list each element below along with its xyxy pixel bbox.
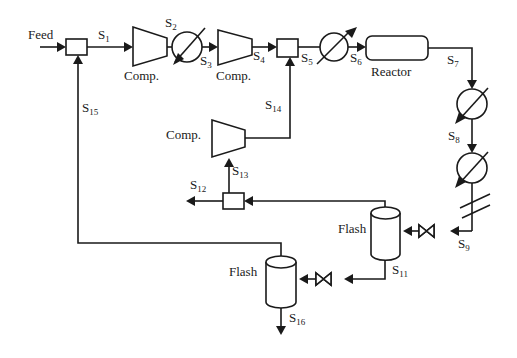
reactor-label: Reactor [371, 64, 412, 79]
stream-s7: S7 [428, 48, 477, 89]
svg-text:S15: S15 [82, 100, 99, 117]
svg-text:S9: S9 [458, 236, 470, 253]
valve-1 [403, 225, 434, 237]
stream-s1: S1 [87, 27, 133, 52]
flash-2-label: Flash [229, 264, 258, 279]
svg-text:S1: S1 [98, 27, 110, 44]
stream-s9: S9 [450, 226, 472, 253]
valve-2 [299, 273, 331, 285]
mixer-2 [277, 39, 298, 57]
compressor-2-label: Comp. [216, 68, 251, 83]
svg-text:S2: S2 [165, 15, 177, 32]
flash-1-label: Flash [338, 221, 367, 236]
compressor-1 [133, 27, 167, 66]
cooler-2 [455, 88, 488, 124]
cooler-3 [455, 152, 488, 188]
reactor [366, 36, 428, 60]
svg-text:S3: S3 [200, 53, 212, 70]
compressor-3-label: Comp. [166, 127, 201, 142]
svg-text:S7: S7 [447, 52, 459, 69]
svg-text:S4: S4 [253, 48, 265, 65]
process-flow-diagram: Feed S1 Comp. S2 S3 Comp. S4 S5 S6 [0, 0, 517, 358]
splitter [223, 193, 244, 209]
feed-label: Feed [28, 27, 54, 42]
svg-text:S12: S12 [190, 177, 206, 194]
svg-text:S11: S11 [392, 262, 408, 279]
svg-text:S16: S16 [289, 310, 306, 327]
svg-text:S6: S6 [350, 50, 362, 67]
compressor-1-label: Comp. [124, 68, 159, 83]
svg-text:S13: S13 [232, 163, 249, 180]
compressor-2 [218, 30, 252, 65]
compressor-3 [212, 120, 245, 157]
mixer-1 [66, 39, 87, 55]
svg-text:S14: S14 [265, 97, 282, 114]
feed-stream: Feed [28, 27, 66, 52]
flash-drum-1 [371, 207, 400, 260]
svg-text:S5: S5 [301, 50, 313, 67]
flash-drum-2 [266, 256, 296, 308]
svg-text:S8: S8 [448, 128, 460, 145]
